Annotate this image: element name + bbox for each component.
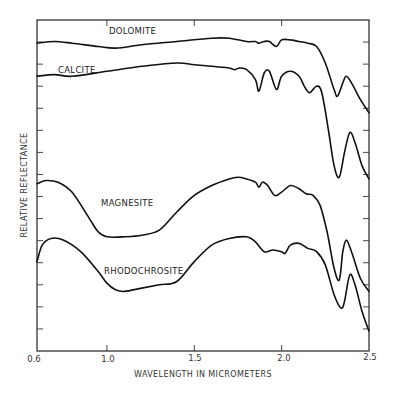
x-tick-label-1.5: 1.5: [188, 353, 202, 363]
x-tick-label-0.6: 0.6: [27, 354, 41, 364]
x-ticks: [107, 20, 282, 351]
curve-magnesite: [37, 177, 369, 291]
x-axis-title: WAVELENGTH IN MICROMETERS: [134, 370, 272, 379]
x-tick-label-2.0: 2.0: [277, 353, 291, 363]
label-calcite: CALCITE: [58, 65, 96, 75]
y-axis-title: RELATIVE REFLECTANCE: [20, 132, 29, 237]
y-ticks-left: [37, 42, 43, 329]
x-tick-label-2.5: 2.5: [363, 352, 377, 362]
curve-calcite: [37, 63, 369, 179]
reflectance-chart: DOLOMITE CALCITE MAGNESITE RHODOCHROSITE…: [0, 0, 394, 394]
curve-dolomite: [37, 38, 369, 113]
label-magnesite: MAGNESITE: [101, 198, 153, 208]
curve-rhodochrosite: [37, 237, 369, 331]
x-tick-label-1.0: 1.0: [101, 354, 115, 364]
label-dolomite: DOLOMITE: [109, 26, 156, 36]
label-rhodochrosite: RHODOCHROSITE: [104, 266, 184, 276]
